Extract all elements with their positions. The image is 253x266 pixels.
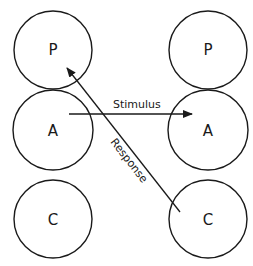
response-label: Response xyxy=(108,136,151,186)
right-parent-node: P xyxy=(169,11,247,89)
transactional-analysis-diagram: P A C P A C Stimulus Response xyxy=(0,0,253,266)
right-parent-label: P xyxy=(203,41,212,59)
left-adult-label: A xyxy=(48,122,59,140)
right-child-label: C xyxy=(203,211,213,229)
stimulus-label: Stimulus xyxy=(113,98,161,111)
right-adult-node: A xyxy=(168,90,248,170)
left-parent-node: P xyxy=(14,11,92,89)
right-child-node: C xyxy=(169,180,247,258)
left-parent-label: P xyxy=(48,41,57,59)
left-child-node: C xyxy=(14,180,92,258)
right-adult-label: A xyxy=(203,122,214,140)
left-child-label: C xyxy=(48,211,58,229)
left-adult-node: A xyxy=(13,90,93,170)
